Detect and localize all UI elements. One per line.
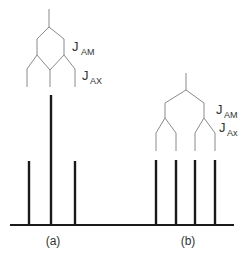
panel-caption-a: (a) (46, 234, 61, 248)
coupling-subscript: AX (90, 76, 102, 86)
nmr-splitting-diagram: J AM J AX J AM J Ax (0, 0, 247, 256)
splitting-tree-b (156, 73, 215, 151)
coupling-subscript: AM (81, 47, 95, 57)
coupling-j-symbol: J (82, 68, 89, 83)
coupling-label-jam-a: J AM (72, 39, 95, 57)
coupling-j-symbol: J (216, 102, 223, 117)
coupling-j-symbol: J (72, 39, 79, 54)
coupling-label-jax-a: J AX (82, 68, 102, 86)
panel-caption-b: (b) (181, 234, 196, 248)
coupling-j-symbol: J (219, 120, 226, 135)
splitting-tree-a (27, 9, 75, 87)
coupling-label-jam-b: J AM (216, 102, 238, 120)
coupling-subscript: AM (224, 110, 238, 120)
stick-spectrum-b (156, 160, 215, 225)
stick-spectrum-a (29, 95, 75, 225)
coupling-label-jax-b: J Ax (219, 120, 238, 138)
coupling-subscript: Ax (227, 128, 238, 138)
